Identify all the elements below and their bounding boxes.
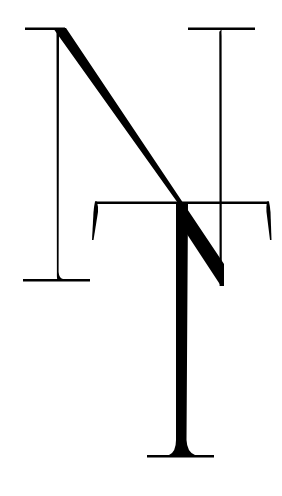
monogram-logo: NT (0, 0, 282, 496)
letter-t (92, 202, 272, 458)
letter-n (23, 28, 255, 287)
